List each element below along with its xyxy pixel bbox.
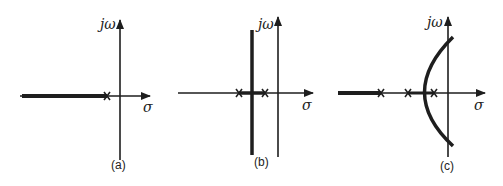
- panel-c: jω σ (c): [338, 14, 485, 173]
- panel-a: jω σ (a): [20, 16, 153, 172]
- jw-label: jω: [424, 14, 443, 30]
- sigma-label: σ: [474, 97, 484, 113]
- panel-caption: (b): [254, 155, 269, 169]
- sigma-label: σ: [143, 99, 153, 115]
- panel-caption: (c): [440, 159, 454, 173]
- jw-label: jω: [97, 16, 116, 32]
- root-locus-figure: jω σ (a) jω σ (b) jω σ: [0, 0, 503, 186]
- sigma-label: σ: [302, 97, 312, 113]
- panel-b: jω σ (b): [178, 16, 313, 169]
- jw-label: jω: [255, 16, 274, 32]
- panel-caption: (a): [111, 158, 126, 172]
